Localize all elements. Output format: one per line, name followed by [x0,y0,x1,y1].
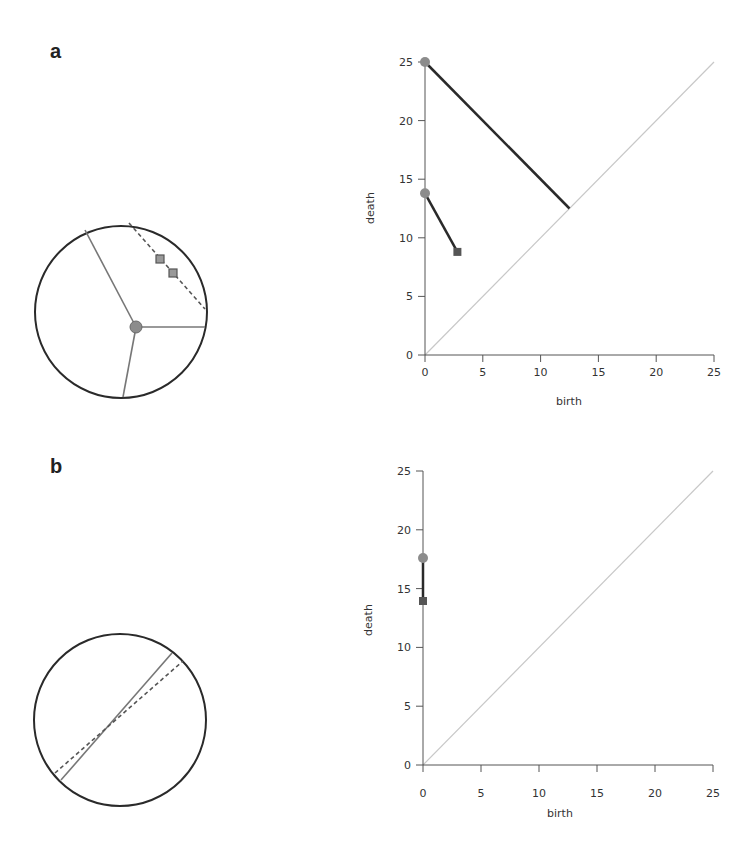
x-tick-label: 5 [478,787,485,800]
x-tick-label: 15 [591,366,605,379]
y-tick-label: 25 [397,465,411,478]
y-tick-label: 5 [406,290,413,303]
y-tick-label: 15 [397,583,411,596]
circle-diagram-a [35,223,207,398]
circle-marker-icon [420,188,430,198]
x-tick-label: 0 [422,366,429,379]
square-marker-icon [419,597,427,605]
x-axis-label: birth [547,807,573,820]
square-marker-icon [156,255,164,263]
diagonal-line [423,471,713,765]
square-marker-icon [453,248,461,256]
y-tick-label: 20 [397,524,411,537]
x-tick-label: 25 [706,787,720,800]
y-tick-label: 20 [399,115,413,128]
square-marker-icon [169,269,177,277]
y-tick-label: 15 [399,173,413,186]
persistence-diagram-a: 25 20 15 10 5 0 0 5 10 15 20 25 birth de… [364,56,721,408]
circle-diagram-b [34,634,206,806]
x-tick-label: 20 [649,366,663,379]
x-tick-label: 15 [590,787,604,800]
y-tick-label: 0 [406,349,413,362]
y-tick-label: 10 [397,641,411,654]
x-tick-label: 10 [532,787,546,800]
circle-marker-icon [420,57,430,67]
y-tick-label: 25 [399,56,413,69]
circle-marker-icon [418,553,428,563]
x-axis-label: birth [556,395,582,408]
y-tick-label: 10 [399,232,413,245]
center-node-icon [130,321,142,333]
persistence-diagram-b: 25 20 15 10 5 0 0 5 10 15 20 25 birth de… [362,465,720,820]
y-tick-label: 5 [404,700,411,713]
x-tick-label: 25 [707,366,721,379]
x-tick-label: 10 [534,366,548,379]
y-axis-label: death [364,192,377,224]
x-tick-label: 20 [648,787,662,800]
x-tick-label: 5 [479,366,486,379]
y-axis-label: death [362,604,375,636]
y-tick-label: 0 [404,759,411,772]
x-tick-label: 0 [420,787,427,800]
diagram-a: 25 20 15 10 5 0 0 5 10 15 20 25 birth de… [0,0,756,846]
